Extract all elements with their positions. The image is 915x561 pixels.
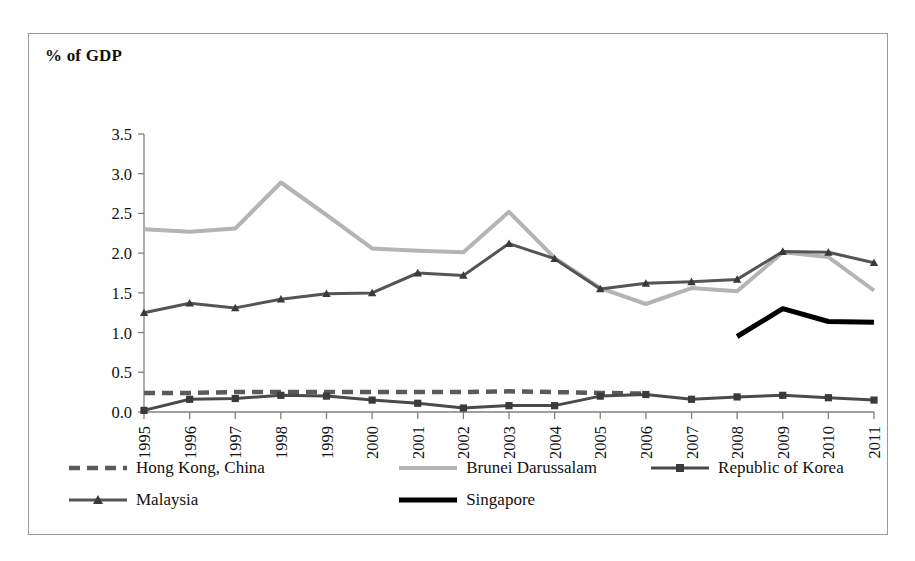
chart-figure: % of GDP 0.00.51.01.52.02.53.03.5 199519… xyxy=(28,33,888,535)
series-malaysia xyxy=(140,239,878,316)
legend-label-singapore: Singapore xyxy=(466,490,535,510)
legend-swatch-hong-kong-china xyxy=(67,461,129,475)
legend-swatch-malaysia xyxy=(67,493,129,507)
legend-swatch-brunei-darussalam xyxy=(397,461,459,475)
legend-item-malaysia[interactable]: Malaysia xyxy=(47,490,397,510)
y-tick-label: 3.0 xyxy=(111,165,132,184)
legend-swatch-republic-of-korea xyxy=(649,461,711,475)
y-tick-label: 1.5 xyxy=(111,284,132,303)
legend-label-republic-of-korea: Republic of Korea xyxy=(718,458,844,478)
legend-item-brunei-darussalam[interactable]: Brunei Darussalam xyxy=(397,458,649,478)
series-layer xyxy=(140,183,878,415)
chart-legend: Hong Kong, China Brunei Darussalam Repub… xyxy=(47,452,875,524)
legend-label-malaysia: Malaysia xyxy=(136,490,198,510)
y-tick-labels: 0.00.51.01.52.02.53.03.5 xyxy=(111,125,132,422)
legend-item-republic-of-korea[interactable]: Republic of Korea xyxy=(649,458,875,478)
legend-swatch-singapore xyxy=(397,493,459,507)
legend-label-hong-kong-china: Hong Kong, China xyxy=(136,458,265,478)
legend-row: Malaysia Singapore xyxy=(47,484,875,516)
y-tick-label: 3.5 xyxy=(111,125,132,144)
y-tick-label: 0.5 xyxy=(111,363,132,382)
legend-row: Hong Kong, China Brunei Darussalam Repub… xyxy=(47,452,875,484)
series-republic-of-korea xyxy=(140,391,877,414)
series-singapore xyxy=(737,309,874,337)
legend-item-singapore[interactable]: Singapore xyxy=(397,490,649,510)
legend-label-brunei-darussalam: Brunei Darussalam xyxy=(466,458,597,478)
y-tick-label: 2.5 xyxy=(111,204,132,223)
series-hong-kong-china xyxy=(144,391,646,393)
y-tick-label: 2.0 xyxy=(111,244,132,263)
y-tick-label: 1.0 xyxy=(111,324,132,343)
y-tick-label: 0.0 xyxy=(111,403,132,422)
x-axis-ticks xyxy=(144,412,874,419)
legend-item-hong-kong-china[interactable]: Hong Kong, China xyxy=(47,458,397,478)
y-axis-ticks xyxy=(138,134,144,412)
